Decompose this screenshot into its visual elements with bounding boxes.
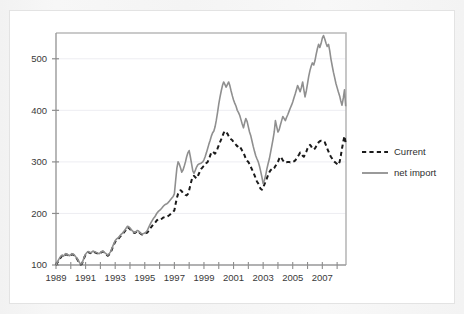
legend-label-net-import: net import <box>394 167 437 178</box>
chart-legend: Currentnet import <box>362 146 437 178</box>
x-tick-label: 1989 <box>45 272 66 283</box>
x-tick-label: 2001 <box>223 272 244 283</box>
y-tick-label: 200 <box>31 208 47 219</box>
x-tick-label: 1993 <box>105 272 126 283</box>
x-tick-label: 2003 <box>253 272 274 283</box>
chart-canvas: 100200300400500 198919911993199519971999… <box>10 11 456 305</box>
data-series-layer <box>56 36 346 265</box>
y-axis-tick-labels: 100200300400500 <box>31 53 47 270</box>
y-tick-label: 400 <box>31 105 47 116</box>
x-tick-label: 2005 <box>282 272 303 283</box>
x-tick-label: 1995 <box>134 272 155 283</box>
line-chart: 100200300400500 198919911993199519971999… <box>10 11 456 305</box>
x-axis-tick-labels: 1989199119931995199719992001200320052007 <box>45 272 332 283</box>
x-tick-label: 2007 <box>312 272 333 283</box>
x-tick-label: 1997 <box>164 272 185 283</box>
x-tick-label: 1991 <box>75 272 96 283</box>
axes <box>56 33 346 265</box>
series-line-current <box>56 131 346 265</box>
page-background: 100200300400500 198919911993199519971999… <box>0 0 464 314</box>
plot-border-top-right <box>56 33 346 265</box>
axis-ticks <box>52 59 337 269</box>
x-tick-label: 1999 <box>193 272 214 283</box>
series-line-net-import <box>56 36 346 265</box>
y-tick-label: 500 <box>31 53 47 64</box>
y-tick-label: 300 <box>31 156 47 167</box>
gridlines <box>56 59 346 265</box>
y-tick-label: 100 <box>31 259 47 270</box>
chart-figure: 100200300400500 198919911993199519971999… <box>9 10 455 304</box>
legend-label-current: Current <box>394 146 426 157</box>
plot-axis-left-bottom <box>56 33 346 265</box>
